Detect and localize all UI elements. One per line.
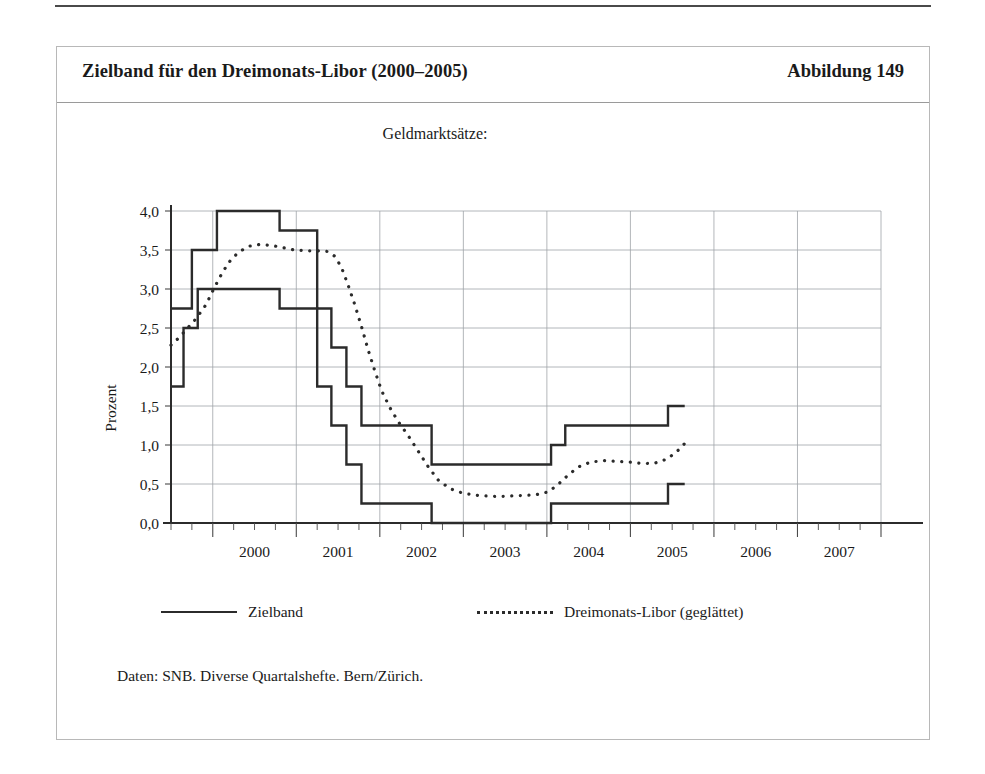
y-tick-label: 0,0	[140, 515, 160, 532]
figure-page: Zielband für den Dreimonats-Libor (2000–…	[0, 0, 985, 774]
legend-item-zielband: Zielband	[161, 603, 303, 621]
x-tick-label: 2000	[239, 543, 270, 560]
x-tick-label: 2003	[490, 543, 521, 560]
series-step-solid	[171, 211, 685, 465]
y-tick-label: 2,5	[140, 320, 160, 337]
x-tick-label: 2007	[824, 543, 855, 560]
y-tick-label: 0,5	[140, 476, 160, 493]
x-tick-label: 2004	[573, 543, 604, 560]
figure-box: Zielband für den Dreimonats-Libor (2000–…	[56, 46, 930, 740]
legend-swatch-dotted-icon	[477, 611, 553, 614]
legend-item-libor: Dreimonats-Libor (geglättet)	[477, 603, 743, 621]
chart-canvas: 0,00,51,01,52,02,53,03,54,02000200120022…	[57, 47, 931, 741]
plot-area: Prozent 0,00,51,01,52,02,53,03,54,020002…	[57, 47, 931, 741]
y-tick-label: 3,5	[140, 242, 160, 259]
series-dotted	[171, 245, 686, 497]
legend-label-zielband: Zielband	[248, 603, 303, 621]
y-tick-label: 3,0	[140, 281, 160, 298]
legend-label-libor: Dreimonats-Libor (geglättet)	[564, 603, 743, 621]
page-top-rule	[55, 5, 931, 7]
chart-legend: Zielband Dreimonats-Libor (geglättet)	[57, 595, 929, 635]
x-tick-label: 2002	[406, 543, 437, 560]
source-note: Daten: SNB. Diverse Quartalshefte. Bern/…	[117, 667, 423, 685]
y-tick-label: 1,0	[140, 437, 160, 454]
y-tick-label: 1,5	[140, 398, 160, 415]
x-tick-label: 2001	[323, 543, 354, 560]
x-tick-label: 2005	[657, 543, 688, 560]
legend-swatch-solid-icon	[161, 611, 237, 613]
y-tick-label: 4,0	[140, 203, 160, 220]
y-tick-label: 2,0	[140, 359, 160, 376]
x-tick-label: 2006	[740, 543, 771, 560]
